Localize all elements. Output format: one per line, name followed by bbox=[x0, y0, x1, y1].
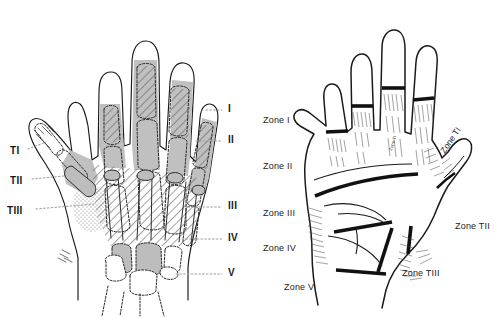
zone-label-TI: TI bbox=[10, 146, 20, 156]
bar-dip-ring bbox=[413, 98, 434, 100]
palmar-zone-label-IV: Zone IV bbox=[263, 244, 296, 253]
palmar-zone-label-V: Zone V bbox=[284, 283, 314, 292]
zone-label-I: I bbox=[228, 104, 231, 114]
flexor-tendon-zone-figure: I II III IV V TI TII TIII bbox=[0, 0, 504, 318]
skeletal-hand-drawing bbox=[0, 0, 252, 318]
palmar-zone-label-TII: Zone TII bbox=[455, 222, 490, 231]
palmar-zone-label-I: Zone I bbox=[263, 116, 290, 125]
panel-palmar-hand: Zone I Zone II Zone III Zone IV Zone V Z… bbox=[252, 0, 504, 318]
bar-dip-index bbox=[326, 131, 348, 132]
palmar-zone-label-TIII: Zone TIII bbox=[402, 269, 440, 278]
zone-label-II: II bbox=[228, 135, 234, 145]
panel-skeletal-hand: I II III IV V TI TII TIII bbox=[0, 0, 252, 318]
zone-label-TII: TII bbox=[10, 176, 23, 186]
zone-label-V: V bbox=[228, 268, 235, 278]
palmar-zone-label-III: Zone III bbox=[263, 209, 295, 218]
palmar-hand-drawing bbox=[252, 0, 504, 318]
palmar-zone-label-II: Zone II bbox=[263, 162, 292, 171]
zone-label-IV: IV bbox=[228, 233, 238, 243]
zone-label-III: III bbox=[228, 201, 237, 211]
zone-label-TIII: TIII bbox=[7, 206, 23, 216]
